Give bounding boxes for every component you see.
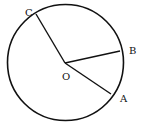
label-o: O bbox=[62, 71, 70, 82]
label-b: B bbox=[129, 45, 136, 56]
radius-oa bbox=[65, 63, 111, 94]
circle-diagram: C B O A bbox=[0, 0, 149, 131]
radius-oc bbox=[36, 14, 65, 63]
label-a: A bbox=[119, 93, 128, 104]
label-c: C bbox=[25, 7, 33, 18]
radius-ob bbox=[65, 51, 120, 63]
